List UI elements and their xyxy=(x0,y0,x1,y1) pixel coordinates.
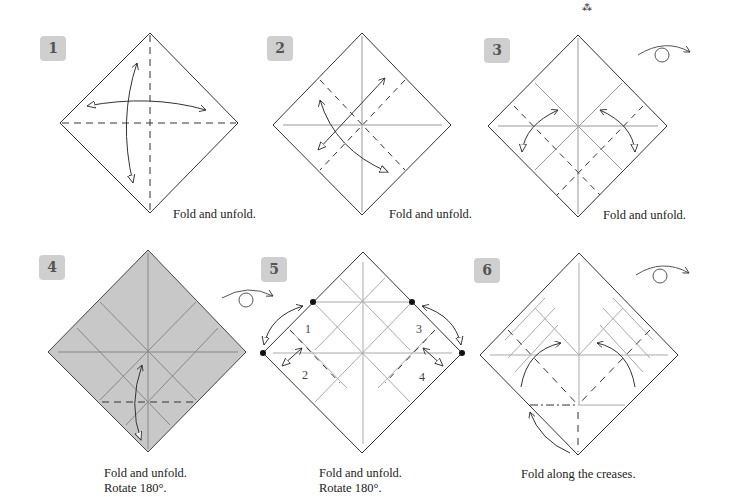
step-badge-6: 6 xyxy=(474,258,500,283)
step-1-caption: Fold and unfold. xyxy=(173,207,256,222)
region-label-3: 3 xyxy=(416,322,422,337)
step-badge-3: 3 xyxy=(484,38,510,63)
step-badge-2: 2 xyxy=(267,36,293,61)
turn-over-icon xyxy=(636,266,689,283)
step-2-diagram xyxy=(273,33,451,215)
region-label-4: 4 xyxy=(419,370,425,385)
reference-point-dot xyxy=(260,350,266,356)
reference-point-dot xyxy=(459,350,465,356)
step-badge-5: 5 xyxy=(261,257,287,282)
region-label-1: 1 xyxy=(305,322,311,337)
reference-point-dot xyxy=(409,299,415,305)
step-5-caption: Fold and unfold.Rotate 180°. xyxy=(319,466,402,496)
step-6-diagram xyxy=(480,253,689,455)
step-4-caption: Fold and unfold.Rotate 180°. xyxy=(104,466,187,496)
step-3-diagram xyxy=(488,35,690,217)
step-2-caption: Fold and unfold. xyxy=(389,207,472,222)
step-6-caption: Fold along the creases. xyxy=(521,467,636,482)
reference-point-dot xyxy=(310,299,316,305)
region-label-2: 2 xyxy=(302,368,308,383)
step-4-diagram xyxy=(48,250,246,452)
step-badge-4: 4 xyxy=(39,255,65,280)
turn-over-icon xyxy=(222,290,273,307)
step-5-diagram xyxy=(222,252,465,453)
origami-diagram xyxy=(0,0,729,497)
step-3-caption: Fold and unfold. xyxy=(603,208,686,223)
step-1-diagram xyxy=(60,33,238,213)
step-badge-1: 1 xyxy=(40,36,66,61)
turn-over-icon xyxy=(638,46,690,62)
